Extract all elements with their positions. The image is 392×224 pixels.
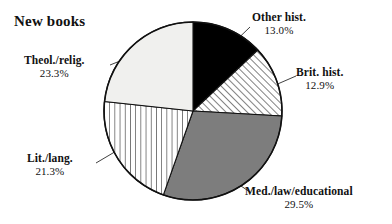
slice-label-med-law: Med./law/educational 29.5%: [245, 185, 353, 210]
slice-label-other-hist-percent: 13.0%: [252, 24, 306, 36]
slice-label-other-hist: Other hist. 13.0%: [252, 11, 306, 36]
slice-label-lit-lang: Lit./lang. 21.3%: [27, 152, 73, 177]
slice-label-brit-hist: Brit. hist. 12.9%: [296, 66, 343, 91]
slice-label-med-law-percent: 29.5%: [245, 198, 353, 210]
slice-label-med-law-text: Med./law/educational: [245, 185, 353, 198]
slice-label-lit-lang-percent: 21.3%: [27, 165, 73, 177]
slice-label-other-hist-text: Other hist.: [252, 11, 306, 24]
pie-slice-theol-relig: [105, 22, 193, 111]
pie-slices: [104, 22, 282, 200]
slice-label-brit-hist-text: Brit. hist.: [296, 66, 343, 79]
slice-label-lit-lang-text: Lit./lang.: [27, 152, 73, 165]
slice-label-theol-relig: Theol./relig. 23.3%: [24, 54, 85, 79]
slice-label-theol-relig-text: Theol./relig.: [24, 54, 85, 67]
slice-label-theol-relig-percent: 23.3%: [24, 67, 85, 79]
pie-chart-figure: New books Other hist.: [0, 0, 392, 224]
slice-label-brit-hist-percent: 12.9%: [296, 79, 343, 91]
